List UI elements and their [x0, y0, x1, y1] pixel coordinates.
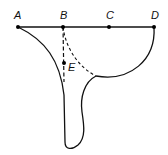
point-e-dot: [62, 61, 66, 65]
point-c-dot: [107, 25, 111, 29]
label-c: C: [106, 9, 114, 21]
label-a: A: [13, 9, 21, 21]
point-d-dot: [152, 25, 156, 29]
diagram-canvas: A B C D E: [0, 0, 168, 155]
dashed-b-e: [63, 27, 64, 82]
curve-a-loop: [18, 27, 96, 148]
label-e: E: [68, 61, 76, 73]
label-b: B: [60, 9, 67, 21]
point-a-dot: [16, 25, 20, 29]
label-d: D: [151, 9, 159, 21]
arc-d: [96, 27, 154, 77]
path-diagram: A B C D E: [0, 0, 168, 155]
point-b-dot: [61, 25, 65, 29]
